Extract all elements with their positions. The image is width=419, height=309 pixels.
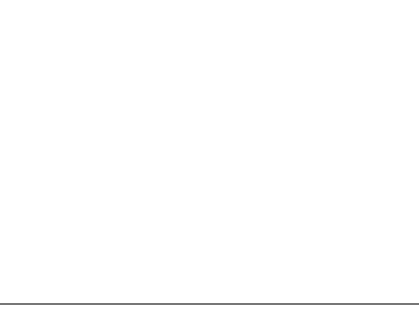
- bottom-divider: [0, 303, 419, 305]
- scatter-chart: [0, 0, 419, 309]
